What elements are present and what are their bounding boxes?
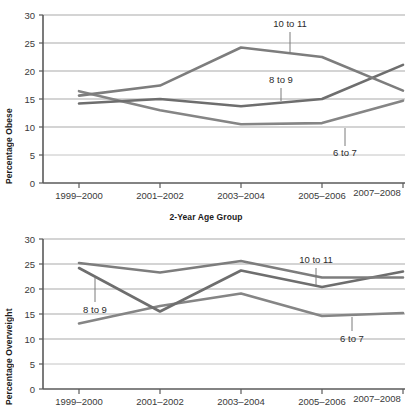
- annotation-label-8to9-overweight: 8 to 9: [83, 304, 107, 315]
- annotation-obese-8to9: 8 to 9: [269, 74, 293, 101]
- series-overweight-6to7: [79, 294, 403, 324]
- x-tick-obese-1: 1999–2000: [55, 190, 103, 201]
- y-tick-over-5: 5: [30, 359, 35, 370]
- y-tick-over-20: 20: [24, 284, 35, 295]
- x-tick-over-1: 1999–2000: [55, 396, 103, 407]
- series-obese-10to11: [79, 47, 403, 95]
- y-tick-obese-5: 5: [30, 150, 35, 161]
- annotation-obese-10to11: 10 to 11: [273, 18, 307, 53]
- x-axis-title: 2-Year Age Group: [0, 212, 412, 222]
- y-tick-obese-0: 0: [30, 178, 35, 189]
- x-tick-over-5: 2007–2008: [353, 393, 401, 404]
- annotation-label-10to11-overweight: 10 to 11: [299, 254, 333, 265]
- x-tick-over-2: 2001–2002: [136, 396, 184, 407]
- y-tick-over-15: 15: [24, 309, 35, 320]
- chart-percentage-obese: Percentage Obese 30 25 20 15 10: [0, 0, 412, 228]
- x-tick-obese-5: 2007–2008: [353, 187, 401, 198]
- y-tick-over-30: 30: [24, 234, 35, 245]
- y-tick-over-10: 10: [24, 334, 35, 345]
- gridlines-obese: [43, 15, 405, 155]
- y-tick-obese-15: 15: [24, 94, 35, 105]
- y-tick-over-0: 0: [30, 384, 35, 395]
- chart-percentage-overweight: Percentage Overweight 30 25 20 15: [0, 228, 412, 418]
- x-tick-over-3: 2003–2004: [217, 396, 265, 407]
- y-tick-over-25: 25: [24, 259, 35, 270]
- annotation-overweight-10to11: 10 to 11: [299, 254, 333, 285]
- x-tick-over-4: 2005–2006: [298, 396, 346, 407]
- x-tick-obese-3: 2003–2004: [217, 190, 265, 201]
- y-tick-obese-20: 20: [24, 66, 35, 77]
- annotation-label-10to11-obese: 10 to 11: [273, 18, 307, 29]
- y-tick-obese-10: 10: [24, 122, 35, 133]
- annotation-overweight-8to9: 8 to 9: [83, 278, 107, 315]
- y-axis-title-overweight: Percentage Overweight: [4, 250, 14, 405]
- x-tick-obese-4: 2005–2006: [298, 190, 346, 201]
- obese-plot-svg: 30 25 20 15 10 5 0 1999–2000 2001–2002 2…: [0, 0, 412, 210]
- annotation-label-6to7-obese: 6 to 7: [333, 147, 357, 158]
- annotation-label-8to9-obese: 8 to 9: [269, 74, 293, 85]
- y-tick-obese-30: 30: [24, 10, 35, 21]
- series-overweight-8to9: [79, 268, 403, 312]
- overweight-plot-svg: 30 25 20 15 10 5 0 1999–2000 2001–2002 2…: [0, 228, 412, 418]
- gridlines-overweight: [43, 239, 405, 364]
- annotation-obese-6to7: 6 to 7: [333, 128, 357, 158]
- x-tick-obese-2: 2001–2002: [136, 190, 184, 201]
- y-axis-title-obese: Percentage Obese: [4, 34, 14, 184]
- y-tick-obese-25: 25: [24, 38, 35, 49]
- annotation-overweight-6to7: 6 to 7: [340, 317, 364, 344]
- series-obese-6to7: [79, 91, 403, 124]
- annotation-label-6to7-overweight: 6 to 7: [340, 333, 364, 344]
